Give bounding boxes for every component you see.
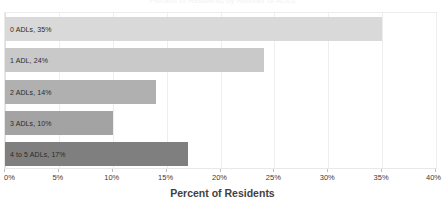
x-tick-mark: [273, 169, 274, 172]
bar-row[interactable]: 0 ADLs, 35%: [5, 17, 438, 41]
chart-title: Percent of Residents by Number of ADLs: [0, 0, 445, 6]
x-tick-mark: [220, 169, 221, 172]
bars-layer: 0 ADLs, 35%1 ADL, 24%2 ADLs, 14%3 ADLs, …: [5, 13, 436, 168]
x-tick-mark: [112, 169, 113, 172]
x-tick-label: 20%: [212, 173, 227, 182]
bar-row[interactable]: 2 ADLs, 14%: [5, 80, 438, 104]
bar-chart: Percent of Residents by Number of ADLs 0…: [0, 0, 445, 198]
x-axis: 0%5%10%15%20%25%30%35%40%: [4, 169, 437, 185]
x-tick-label: 0%: [4, 173, 15, 182]
x-tick-label: 10%: [104, 173, 119, 182]
x-tick-label: 5%: [52, 173, 63, 182]
x-tick-mark: [327, 169, 328, 172]
x-tick-label: 35%: [374, 173, 389, 182]
bar-data-label: 3 ADLs, 10%: [10, 119, 52, 126]
x-tick-label: 25%: [266, 173, 281, 182]
x-tick-label: 15%: [158, 173, 173, 182]
x-tick-label: 30%: [320, 173, 335, 182]
bar[interactable]: [5, 17, 382, 41]
x-tick-mark: [166, 169, 167, 172]
x-tick-mark: [435, 169, 436, 172]
bar-row[interactable]: 1 ADL, 24%: [5, 48, 438, 72]
x-tick-mark: [4, 169, 5, 172]
bar-data-label: 0 ADLs, 35%: [10, 25, 52, 32]
bar-row[interactable]: 3 ADLs, 10%: [5, 111, 438, 135]
x-axis-title: Percent of Residents: [0, 187, 445, 198]
plot-area: 0 ADLs, 35%1 ADL, 24%2 ADLs, 14%3 ADLs, …: [4, 12, 437, 169]
bar-data-label: 4 to 5 ADLs, 17%: [10, 151, 66, 158]
bar-data-label: 2 ADLs, 14%: [10, 88, 52, 95]
bar-data-label: 1 ADL, 24%: [10, 57, 48, 64]
x-tick-mark: [58, 169, 59, 172]
x-tick-mark: [381, 169, 382, 172]
x-tick-label: 40%: [426, 173, 441, 182]
bar-row[interactable]: 4 to 5 ADLs, 17%: [5, 142, 438, 166]
